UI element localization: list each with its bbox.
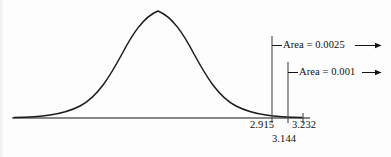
normal-curve-tail-area-figure: Area = 0.0025 Area = 0.001 2.915 3.232 3… (0, 0, 391, 157)
axis-tick-label-2915: 2.915 (250, 120, 274, 131)
area-annotation-lower: Area = 0.001 (299, 67, 355, 78)
axis-tick-label-3232: 3.232 (292, 120, 316, 131)
axis-tick-label-3144: 3.144 (272, 134, 296, 145)
normal-density-curve (14, 11, 302, 118)
area-annotation-upper: Area = 0.0025 (283, 40, 345, 51)
distribution-plot (0, 0, 391, 157)
